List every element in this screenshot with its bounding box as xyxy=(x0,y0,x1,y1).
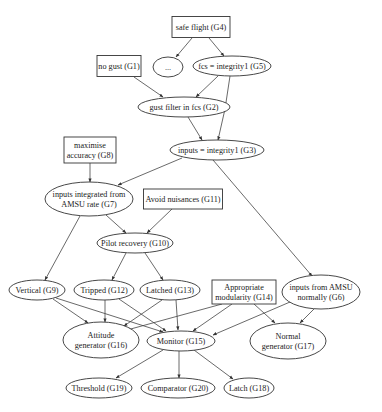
node-label: gust filter in fcs (G2) xyxy=(149,103,218,112)
edge-g5-to-g2 xyxy=(196,76,218,97)
edge-g10-to-g12 xyxy=(112,253,126,280)
edge-g14-to-g15 xyxy=(193,304,232,331)
goal-structure-diagram: safe flight (G4)...fcs = integrity1 (G5)… xyxy=(0,0,382,412)
node-g20: Comparator (G20) xyxy=(141,378,215,398)
edge-g3-to-g7 xyxy=(118,158,182,185)
node-label: accuracy (G8) xyxy=(67,151,114,160)
node-g9: Vertical (G9) xyxy=(9,280,65,300)
edge-g1-to-g2 xyxy=(134,77,163,97)
edge-g14-to-g16 xyxy=(127,304,222,330)
node-label: Latched (G13) xyxy=(146,286,194,295)
node-label: Comparator (G20) xyxy=(148,384,209,393)
node-g13: Latched (G13) xyxy=(140,280,200,300)
node-g19: Threshold (G19) xyxy=(66,378,132,398)
node-g7: inputs integrated fromAMSU rate (G7) xyxy=(45,182,133,216)
node-g2: gust filter in fcs (G2) xyxy=(138,97,230,117)
node-label: inputs from AMSU xyxy=(289,283,352,292)
node-label: Monitor (G15) xyxy=(157,337,206,346)
node-label: fcs = integrity1 (G5) xyxy=(198,62,266,71)
node-g18: Latch (G18) xyxy=(224,378,274,398)
nodes-layer: safe flight (G4)...fcs = integrity1 (G5)… xyxy=(9,17,360,399)
edge-g11-to-g10 xyxy=(147,209,172,233)
node-label: normally (G6) xyxy=(297,293,344,302)
node-g10: Pilot recovery (G10) xyxy=(97,233,173,253)
edge-g13-to-g15 xyxy=(176,300,178,330)
node-label: ... xyxy=(165,63,171,72)
node-label: Attitude xyxy=(88,331,115,340)
node-label: safe flight (G4) xyxy=(176,23,227,32)
node-g12: Tripped (G12) xyxy=(74,280,134,300)
edge-g7-to-g9 xyxy=(45,216,80,280)
node-label: maximise xyxy=(74,141,106,150)
node-label: Pilot recovery (G10) xyxy=(101,239,169,248)
node-label: Appropriate xyxy=(224,283,264,292)
node-g3: inputs = integrity1 (G3) xyxy=(170,140,264,160)
node-label: Avoid nuisances (G11) xyxy=(145,195,220,204)
edge-g6-to-g17 xyxy=(300,309,314,323)
node-label: no gust (G1) xyxy=(98,62,140,71)
node-label: generator (G16) xyxy=(75,341,128,350)
node-label: Latch (G18) xyxy=(229,384,270,393)
edge-g3-to-g6 xyxy=(213,160,312,276)
node-label: Vertical (G9) xyxy=(16,286,59,295)
node-g16: Attitudegenerator (G16) xyxy=(63,322,139,358)
node-label: AMSU rate (G7) xyxy=(61,200,117,209)
edge-g7-to-g10 xyxy=(106,215,126,233)
node-g8: maximiseaccuracy (G8) xyxy=(64,137,116,163)
node-g4: safe flight (G4) xyxy=(172,17,230,38)
node-dots: ... xyxy=(153,57,183,77)
edge-g2-to-g3 xyxy=(188,117,202,140)
node-g6: inputs from AMSUnormally (G6) xyxy=(282,275,360,309)
node-g15: Monitor (G15) xyxy=(147,331,215,351)
node-label: Normal xyxy=(275,332,301,341)
node-g17: Normalgenerator (G17) xyxy=(250,323,326,359)
edge-g4-to-dots xyxy=(176,38,192,57)
node-g11: Avoid nuisances (G11) xyxy=(144,189,223,209)
node-label: modularity (G14) xyxy=(215,293,273,302)
node-label: inputs integrated from xyxy=(53,190,126,199)
node-g5: fcs = integrity1 (G5) xyxy=(193,56,271,76)
node-label: inputs = integrity1 (G3) xyxy=(178,146,256,155)
node-label: generator (G17) xyxy=(262,342,315,351)
edge-g15-to-g18 xyxy=(194,350,233,379)
edge-g4-to-g5 xyxy=(209,38,224,56)
node-label: Tripped (G12) xyxy=(80,286,128,295)
node-g14: Appropriatemodularity (G14) xyxy=(212,280,276,304)
edge-g14-to-g17 xyxy=(254,304,275,323)
node-label: Threshold (G19) xyxy=(72,384,127,393)
edge-g10-to-g13 xyxy=(145,253,163,280)
node-g1: no gust (G1) xyxy=(97,56,141,77)
